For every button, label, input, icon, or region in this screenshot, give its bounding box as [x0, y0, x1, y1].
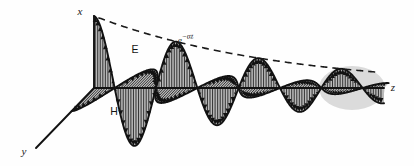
em-wave-figure: x y z E H e−αz — [0, 0, 414, 166]
y-axis-label: y — [21, 145, 27, 157]
z-axis-label: z — [390, 81, 396, 93]
decay-envelope-label: e−αz — [177, 31, 195, 46]
figure-canvas: x y z E H e−αz — [0, 0, 414, 166]
e-field-label: E — [131, 43, 138, 55]
decay-envelope-curve — [98, 18, 379, 73]
y-axis-line — [36, 88, 94, 148]
h-field-label: H — [110, 105, 118, 117]
x-axis-label: x — [77, 5, 83, 17]
